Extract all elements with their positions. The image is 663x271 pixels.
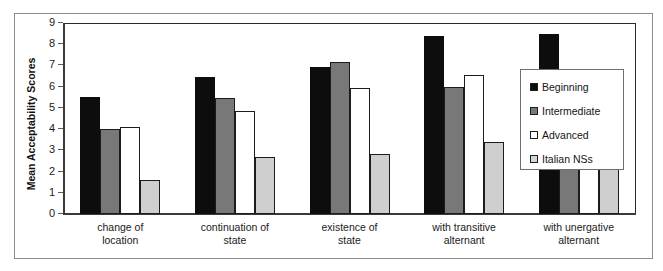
y-tick-label: 7 xyxy=(35,59,55,70)
legend-swatch-dark-gray-icon xyxy=(530,107,538,115)
legend-label: Beginning xyxy=(542,81,589,93)
bar-italian-nss xyxy=(255,157,275,214)
legend-swatch-white-icon xyxy=(530,131,538,139)
x-axis-label-line: with unergative xyxy=(515,221,642,234)
y-tick-label: 6 xyxy=(35,81,55,92)
bar-advanced xyxy=(120,127,140,214)
legend-item-intermediate: Intermediate xyxy=(530,105,600,117)
x-axis-label-line: state xyxy=(286,234,413,247)
bar-group xyxy=(195,23,275,214)
x-axis-category-label: continuation ofstate xyxy=(172,221,299,246)
y-tick-mark xyxy=(58,107,63,108)
x-axis-label-line: existence of xyxy=(286,221,413,234)
legend-item-advanced: Advanced xyxy=(530,129,589,141)
bar-beginning xyxy=(80,97,100,214)
y-tick-mark xyxy=(58,43,63,44)
y-tick-label: 4 xyxy=(35,123,55,134)
legend-swatch-black-icon xyxy=(530,83,538,91)
y-tick-mark xyxy=(58,213,63,214)
x-axis-category-label: with unergativealternant xyxy=(515,221,642,246)
y-tick-label: 3 xyxy=(35,144,55,155)
y-tick-label: 9 xyxy=(35,17,55,28)
bar-advanced xyxy=(464,75,484,214)
bar-intermediate xyxy=(100,129,120,214)
y-tick-mark xyxy=(58,128,63,129)
y-tick-label: 1 xyxy=(35,187,55,198)
legend-label: Intermediate xyxy=(542,105,600,117)
x-axis-label-line: alternant xyxy=(401,234,528,247)
bar-advanced xyxy=(350,88,370,214)
legend-label: Italian NSs xyxy=(542,153,593,165)
y-tick-mark xyxy=(58,86,63,87)
x-axis-label-line: alternant xyxy=(515,234,642,247)
bar-advanced xyxy=(235,111,255,214)
y-tick-label: 0 xyxy=(35,208,55,219)
x-axis-label-line: with transitive xyxy=(401,221,528,234)
bar-chart-figure: Mean Acceptability Scores 9876543210 cha… xyxy=(0,0,663,271)
x-axis-category-label: existence ofstate xyxy=(286,221,413,246)
bar-beginning xyxy=(310,67,330,214)
y-tick-mark xyxy=(58,192,63,193)
legend-label: Advanced xyxy=(542,129,589,141)
x-axis-category-label: change oflocation xyxy=(57,221,184,246)
bar-group xyxy=(80,23,160,214)
y-axis-line xyxy=(63,23,65,215)
x-axis-label-line: change of xyxy=(57,221,184,234)
x-axis-label-line: location xyxy=(57,234,184,247)
chart-legend: BeginningIntermediateAdvancedItalian NSs xyxy=(520,69,624,170)
x-axis-category-label: with transitivealternant xyxy=(401,221,528,246)
bar-beginning xyxy=(424,36,444,214)
bar-group xyxy=(310,23,390,214)
y-tick-mark xyxy=(58,64,63,65)
bar-italian-nss xyxy=(370,154,390,214)
y-tick-label: 8 xyxy=(35,38,55,49)
y-tick-mark xyxy=(58,22,63,23)
bar-group xyxy=(424,23,504,214)
bar-beginning xyxy=(195,77,215,214)
legend-item-italian-nss: Italian NSs xyxy=(530,153,593,165)
y-tick-mark xyxy=(58,149,63,150)
bar-italian-nss xyxy=(484,142,504,214)
bar-intermediate xyxy=(215,98,235,214)
y-tick-label: 5 xyxy=(35,102,55,113)
legend-item-beginning: Beginning xyxy=(530,81,589,93)
legend-swatch-light-gray-icon xyxy=(530,155,538,163)
y-tick-mark xyxy=(58,171,63,172)
x-axis-label-line: continuation of xyxy=(172,221,299,234)
bar-intermediate xyxy=(444,87,464,214)
x-axis-label-line: state xyxy=(172,234,299,247)
bar-intermediate xyxy=(330,62,350,214)
y-tick-label: 2 xyxy=(35,166,55,177)
bar-italian-nss xyxy=(140,180,160,214)
